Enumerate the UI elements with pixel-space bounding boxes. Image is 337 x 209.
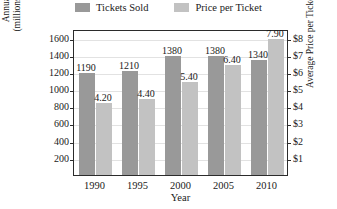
bar-value-label-price-per-ticket: 4.40 xyxy=(132,89,160,99)
bar-value-label-tickets-sold: 1340 xyxy=(243,50,273,60)
x-axis-tick-label: 2000 xyxy=(159,180,202,191)
bar-price-per-ticket xyxy=(96,103,112,175)
bar-price-per-ticket xyxy=(139,99,155,175)
x-axis-tick-label: 2005 xyxy=(202,180,245,191)
bar-value-label-tickets-sold: 1210 xyxy=(114,61,144,71)
y-axis-right-tick-label: $8 xyxy=(293,34,303,44)
bar-price-per-ticket xyxy=(182,82,198,175)
x-axis-tick-label: 2010 xyxy=(245,180,288,191)
y-axis-right-tick-label: $5 xyxy=(293,85,303,95)
legend-item-price-per-ticket: Price per Ticket xyxy=(174,2,262,13)
bar-group xyxy=(74,31,117,175)
bar-value-label-price-per-ticket: 7.90 xyxy=(261,29,289,39)
bar-tickets-sold xyxy=(208,56,224,175)
legend-item-tickets-sold: Tickets Sold xyxy=(75,2,148,13)
y-axis-left-tick-label: 1600 xyxy=(49,34,69,44)
legend-swatch-icon-price-per-ticket xyxy=(174,3,189,12)
y-axis-right-tick-label: $1 xyxy=(293,154,303,164)
y-axis-left-tick-label: 1000 xyxy=(49,85,69,95)
legend-label-price-per-ticket: Price per Ticket xyxy=(195,2,262,13)
y-axis-right-tick-label: $7 xyxy=(293,51,303,61)
y-axis-right-tick-label: $2 xyxy=(293,137,303,147)
x-axis-tick-label: 1990 xyxy=(73,180,116,191)
y-axis-right-title: Average Price per Ticket xyxy=(303,0,317,111)
x-axis-tick-label: 1995 xyxy=(116,180,159,191)
y-axis-left-tick-label: 400 xyxy=(54,137,69,147)
bar-value-label-tickets-sold: 1190 xyxy=(71,63,101,73)
bar-tickets-sold xyxy=(122,71,138,175)
chart-container: Tickets Sold Price per Ticket Annual Adm… xyxy=(0,0,337,209)
bar-value-label-price-per-ticket: 4.20 xyxy=(89,93,117,103)
bar-tickets-sold xyxy=(251,60,267,175)
y-axis-left-tick-label: 800 xyxy=(54,102,69,112)
y-axis-left-tick-label: 600 xyxy=(54,119,69,129)
y-axis-right-tick-label: $3 xyxy=(293,119,303,129)
y-axis-left-tick-label: 1400 xyxy=(49,51,69,61)
bar-tickets-sold xyxy=(79,73,95,175)
y-axis-left-title: Annual Admissions (millions of tickets s… xyxy=(0,0,26,58)
y-axis-left-tick-label: 200 xyxy=(54,154,69,164)
legend-label-tickets-sold: Tickets Sold xyxy=(96,2,148,13)
chart-legend: Tickets Sold Price per Ticket xyxy=(0,2,337,13)
y-axis-right-tick-label: $6 xyxy=(293,68,303,78)
bar-value-label-price-per-ticket: 6.40 xyxy=(218,55,246,65)
bar-value-label-tickets-sold: 1380 xyxy=(157,46,187,56)
y-axis-right-tick-label: $4 xyxy=(293,102,303,112)
legend-swatch-icon-tickets-sold xyxy=(75,3,90,12)
y-axis-left-tick-label: 1200 xyxy=(49,68,69,78)
x-axis-title: Year xyxy=(73,192,288,203)
bar-group xyxy=(117,31,160,175)
y-axis-left-title-line2: (millions of tickets sold) xyxy=(12,0,23,32)
bar-value-label-price-per-ticket: 5.40 xyxy=(175,72,203,82)
y-axis-left-title-line1: Annual Admissions xyxy=(1,0,12,22)
bar-price-per-ticket xyxy=(225,65,241,175)
